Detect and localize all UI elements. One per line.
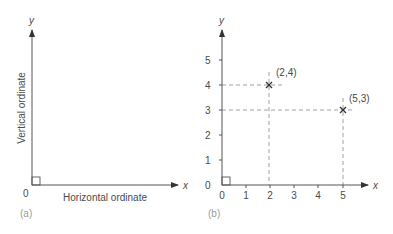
y-tick-2: 2: [205, 130, 211, 141]
x-axis-symbol: x: [182, 180, 189, 191]
panel-b: y x 0 1 2 3 4 5 0 1 2 3 4 5: [205, 15, 379, 219]
point-label: (2,4): [276, 67, 297, 78]
right-angle-marker: [32, 177, 40, 185]
y-tick-4: 4: [205, 80, 211, 91]
point-label: (5,3): [349, 93, 370, 104]
caption-a: (a): [20, 208, 32, 219]
y-axis-symbol: y: [28, 15, 35, 26]
coordinate-diagram: y x 0 Horizontal ordinate Vertical ordin…: [0, 0, 393, 234]
x-ticks: 0 1 2 3 4 5: [219, 185, 346, 201]
right-angle-marker: [222, 177, 230, 185]
y-tick-3: 3: [205, 105, 211, 116]
caption-b: (b): [208, 208, 220, 219]
y-tick-5: 5: [205, 55, 211, 66]
y-ticks: 0 1 2 3 4 5: [205, 55, 222, 191]
origin-label: 0: [23, 188, 29, 199]
panel-a: y x 0 Horizontal ordinate Vertical ordin…: [16, 15, 189, 219]
y-tick-0: 0: [205, 180, 211, 191]
x-tick-4: 4: [315, 190, 321, 201]
x-tick-3: 3: [291, 190, 297, 201]
x-tick-5: 5: [340, 190, 346, 201]
y-axis-symbol: y: [218, 15, 225, 26]
x-tick-0: 0: [219, 190, 225, 201]
x-axis-title: Horizontal ordinate: [63, 192, 147, 203]
x-tick-1: 1: [243, 190, 249, 201]
x-tick-2: 2: [267, 190, 273, 201]
y-tick-1: 1: [205, 155, 211, 166]
x-axis-symbol: x: [372, 180, 379, 191]
y-axis-title: Vertical ordinate: [16, 72, 27, 144]
